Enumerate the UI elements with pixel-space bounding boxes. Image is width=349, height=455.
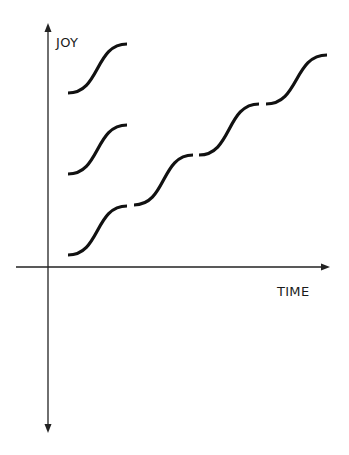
- isolated-step-middle: [68, 125, 127, 174]
- x-axis-label: TIME: [277, 284, 309, 299]
- y-axis-up-arrow-icon: [45, 23, 52, 32]
- y-axis-label: JOY: [56, 35, 78, 50]
- isolated-step-top: [68, 44, 127, 93]
- staircase-step-4: [266, 55, 327, 104]
- staircase-step-3: [199, 104, 259, 155]
- staircase-step-1: [68, 206, 127, 255]
- x-axis-right-arrow-icon: [321, 264, 330, 271]
- joy-time-diagram: [0, 0, 349, 455]
- staircase-step-2: [134, 155, 193, 205]
- y-axis-down-arrow-icon: [45, 424, 52, 433]
- curves: [68, 44, 327, 255]
